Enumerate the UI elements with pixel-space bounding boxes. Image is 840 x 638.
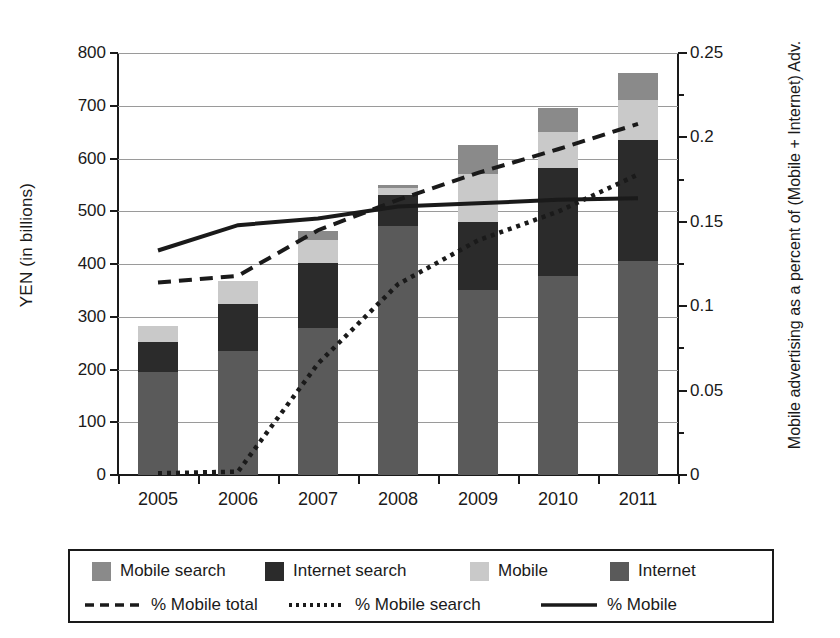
y-tick-mark-right-minor (678, 432, 684, 434)
legend-label: % Mobile (607, 595, 677, 615)
chart-legend: Mobile searchInternet searchMobileIntern… (68, 549, 774, 623)
x-tick-mark (678, 475, 680, 484)
y-tick-label-right: 0.1 (678, 296, 714, 316)
x-tick-mark (198, 475, 200, 484)
legend-label: % Mobile search (355, 595, 481, 615)
y-tick-label-left: 500 (78, 201, 118, 221)
y-tick-label-left: 100 (78, 412, 118, 432)
y-axis-left-title: YEN (in billions) (10, 0, 44, 490)
y-tick-label-right: 0.15 (678, 212, 723, 232)
x-tick-label: 2006 (218, 489, 258, 510)
legend-label: Mobile (498, 561, 548, 581)
y-tick-mark-right-minor (678, 347, 684, 349)
legend-item[interactable]: Internet (610, 561, 696, 581)
x-tick-mark (118, 475, 120, 484)
legend-item[interactable]: Mobile search (92, 561, 226, 581)
legend-label: Internet (638, 561, 696, 581)
line-series (158, 175, 638, 474)
y-tick-label-left: 200 (78, 360, 118, 380)
y-axis-right-title: Mobile advertising as a percent of (Mobi… (760, 0, 830, 490)
y-tick-label-left: 800 (78, 43, 118, 63)
x-tick-label: 2010 (538, 489, 578, 510)
x-tick-label: 2005 (138, 489, 178, 510)
x-tick-mark (438, 475, 440, 484)
x-tick-mark (598, 475, 600, 484)
y-tick-label-right: 0.05 (678, 381, 723, 401)
x-tick-label: 2007 (298, 489, 338, 510)
y-tick-label-left: 300 (78, 307, 118, 327)
legend-item[interactable]: % Mobile total (84, 595, 258, 615)
legend-item[interactable]: Internet search (265, 561, 406, 581)
chart-root: YEN (in billions) Mobile advertising as … (0, 0, 840, 638)
y-tick-mark-right-minor (678, 263, 684, 265)
legend-label: Internet search (293, 561, 406, 581)
x-tick-label: 2008 (378, 489, 418, 510)
plot-area: 0100200300400500600700800 00.050.10.150.… (118, 53, 678, 475)
line-series-group (118, 53, 678, 475)
legend-item[interactable]: % Mobile (540, 595, 677, 615)
y-tick-label-right: 0.25 (678, 43, 723, 63)
y-tick-mark-right-minor (678, 179, 684, 181)
legend-swatch-icon (470, 562, 489, 581)
x-tick-mark (518, 475, 520, 484)
legend-item[interactable]: Mobile (470, 561, 548, 581)
legend-swatch-icon (610, 562, 629, 581)
legend-swatch-icon (92, 562, 111, 581)
legend-swatch-icon (265, 562, 284, 581)
legend-line-icon (540, 598, 598, 612)
line-series (158, 124, 638, 283)
y-tick-label-right: 0.2 (678, 127, 714, 147)
legend-item[interactable]: % Mobile search (288, 595, 481, 615)
y-tick-mark-right-minor (678, 94, 684, 96)
legend-line-icon (288, 598, 346, 612)
x-tick-label: 2011 (619, 489, 658, 510)
legend-label: Mobile search (120, 561, 226, 581)
x-tick-label: 2009 (458, 489, 498, 510)
y-tick-label-left: 400 (78, 254, 118, 274)
line-series (158, 198, 638, 250)
x-tick-mark (358, 475, 360, 484)
y-tick-label-right: 0 (678, 465, 699, 485)
legend-label: % Mobile total (151, 595, 258, 615)
legend-line-icon (84, 598, 142, 612)
legend-row-swatches: Mobile searchInternet searchMobileIntern… (70, 555, 772, 587)
y-tick-label-left: 600 (78, 149, 118, 169)
y-tick-label-left: 0 (97, 465, 118, 485)
legend-row-lines: % Mobile total% Mobile search% Mobile (70, 589, 772, 621)
y-tick-label-left: 700 (78, 96, 118, 116)
x-tick-mark (278, 475, 280, 484)
